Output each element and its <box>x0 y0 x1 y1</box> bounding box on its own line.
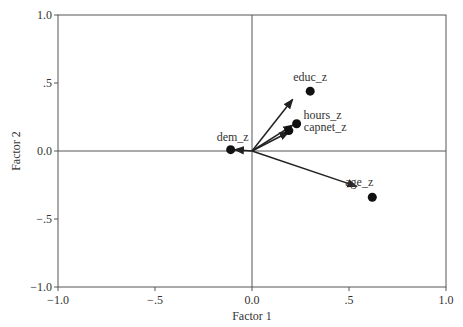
x-tick-label: 0.0 <box>245 293 260 307</box>
data-point <box>306 87 315 96</box>
x-tick-label: 1.0 <box>439 293 454 307</box>
y-tick-label: −.5 <box>36 212 52 226</box>
point-label: educ_z <box>293 70 327 84</box>
x-tick-label: .5 <box>345 293 354 307</box>
data-point <box>284 126 293 135</box>
y-axis-ticks: 1.0.50.0−.5−1.0 <box>30 8 58 294</box>
vector-arrow <box>252 99 293 151</box>
factor-plot: −1.0−.50.0.51.0 1.0.50.0−.5−1.0 Factor 1… <box>0 0 463 327</box>
data-point <box>368 193 377 202</box>
point-label: capnet_z <box>304 120 347 134</box>
y-tick-label: 1.0 <box>37 8 52 22</box>
vector-arrow <box>252 132 289 151</box>
y-tick-label: .5 <box>43 76 52 90</box>
x-axis-label: Factor 1 <box>232 309 272 323</box>
y-tick-label: 0.0 <box>37 144 52 158</box>
y-axis-label: Factor 2 <box>9 131 23 171</box>
y-tick-label: −1.0 <box>30 280 52 294</box>
data-point <box>292 119 301 128</box>
x-tick-label: −.5 <box>147 293 163 307</box>
x-tick-label: −1.0 <box>47 293 69 307</box>
point-label: dem_z <box>217 130 249 144</box>
data-points: educ_zhours_zcapnet_zdem_zage_z <box>217 70 377 202</box>
x-axis-ticks: −1.0−.50.0.51.0 <box>47 287 453 307</box>
vector-arrow <box>252 151 357 186</box>
point-label: age_z <box>345 175 373 189</box>
data-point <box>226 145 235 154</box>
